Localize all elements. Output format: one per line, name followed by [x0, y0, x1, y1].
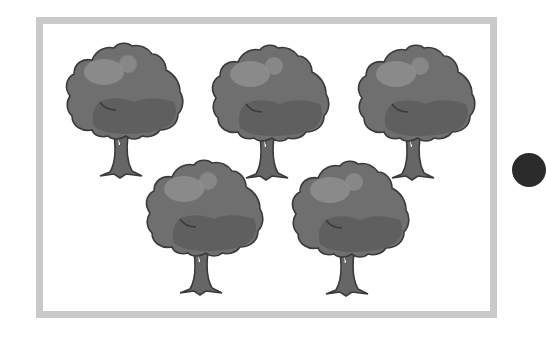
tree-icon — [288, 158, 412, 298]
tree-icon — [142, 157, 266, 297]
partial-circle-shape — [512, 153, 546, 187]
